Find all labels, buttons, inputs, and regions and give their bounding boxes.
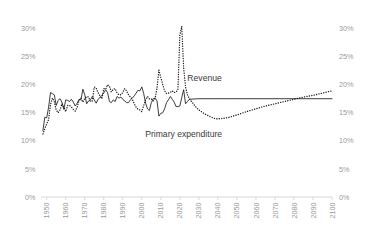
x-tick-label: 1980 [99, 203, 108, 219]
y-tick-label-left: 30% [21, 24, 36, 33]
x-tick-label: 2090 [309, 203, 318, 219]
x-tick-label: 2080 [290, 203, 299, 219]
y-tick-label-left: 0% [25, 193, 36, 202]
y-tick-label-left: 25% [21, 52, 36, 61]
series-line-revenue [43, 87, 332, 131]
x-tick-label: 2010 [156, 203, 165, 219]
y-axis-tick-labels-right: 0%5%10%15%20%25%30% [339, 24, 354, 202]
x-tick-label: 1990 [118, 203, 127, 219]
x-tick-label: 1960 [61, 203, 70, 219]
y-tick-label-left: 15% [21, 108, 36, 117]
x-tick-label: 2020 [175, 203, 184, 219]
chart-plot-area: 1950196019701980199020002010202020302040… [21, 24, 354, 218]
y-axis-tick-labels-left: 0%5%10%15%20%25%30% [21, 24, 36, 202]
x-axis-tick-labels: 1950196019701980199020002010202020302040… [42, 203, 336, 219]
x-tick-label: 2100 [328, 203, 337, 219]
chart-annotations: RevenuePrimary expenditure [145, 73, 222, 139]
y-tick-label-right: 20% [339, 80, 354, 89]
chart-container: 1950196019701980199020002010202020302040… [0, 0, 375, 237]
x-tick-label: 2000 [137, 203, 146, 219]
x-tick-label: 1950 [42, 203, 51, 219]
y-tick-label-left: 20% [21, 80, 36, 89]
x-axis-tickmarks [47, 197, 332, 200]
x-tick-label: 2030 [194, 203, 203, 219]
x-tick-label: 2070 [271, 203, 280, 219]
y-tick-label-right: 0% [339, 193, 350, 202]
y-tick-label-right: 25% [339, 52, 354, 61]
y-tick-label-right: 10% [339, 136, 354, 145]
y-tick-label-right: 30% [339, 24, 354, 33]
fiscal-projection-chart: 1950196019701980199020002010202020302040… [0, 0, 375, 237]
y-tick-label-right: 15% [339, 108, 354, 117]
y-tick-label-left: 5% [25, 165, 36, 174]
revenue-label: Revenue [187, 73, 222, 83]
primary-expenditure-label: Primary expenditure [145, 129, 222, 139]
y-tick-label-right: 5% [339, 165, 350, 174]
x-tick-label: 2050 [233, 203, 242, 219]
x-tick-label: 1970 [80, 203, 89, 219]
x-tick-label: 2060 [252, 203, 261, 219]
x-tick-label: 2040 [213, 203, 222, 219]
y-tick-label-left: 10% [21, 136, 36, 145]
